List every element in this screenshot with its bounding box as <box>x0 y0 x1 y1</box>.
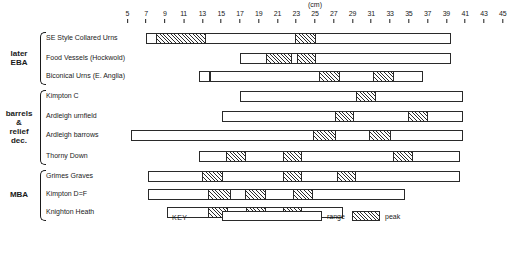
axis-tick-label: 19 <box>255 10 262 17</box>
axis-tick-35: 35 <box>405 10 412 23</box>
peak-segment <box>295 34 316 43</box>
peak-segment <box>283 172 302 181</box>
axis-tick-label: 45 <box>499 10 506 17</box>
axis-tick-mark <box>446 19 447 23</box>
axis-tick-label: 5 <box>125 10 129 17</box>
axis-tick-mark <box>258 19 259 23</box>
axis-tick-mark <box>502 19 503 23</box>
axis-tick-mark <box>164 19 165 23</box>
peak-segment <box>266 54 291 63</box>
range-bar <box>222 111 463 122</box>
axis-tick-31: 31 <box>368 10 375 23</box>
axis-tick-mark <box>333 19 334 23</box>
axis-tick-label: 29 <box>349 10 356 17</box>
axis-tick-label: 25 <box>311 10 318 17</box>
axis-tick-mark <box>127 19 128 23</box>
peak-segment <box>245 190 267 199</box>
axis-tick-27: 27 <box>330 10 337 23</box>
axis-tick-25: 25 <box>311 10 318 23</box>
axis-tick-mark <box>202 19 203 23</box>
axis-tick-label: 31 <box>368 10 375 17</box>
key-label-peak: peak <box>385 213 400 221</box>
peak-segment <box>313 131 336 140</box>
axis-tick-43: 43 <box>480 10 487 23</box>
chart-key: KEY range peak <box>0 208 522 230</box>
axis-tick-17: 17 <box>236 10 243 23</box>
axis-tick-9: 9 <box>163 10 167 23</box>
key-swatch-range <box>222 211 322 221</box>
axis-tick-mark <box>352 19 353 23</box>
group-name: MBA <box>0 190 38 199</box>
axis-tick-37: 37 <box>424 10 431 23</box>
peak-segment <box>202 172 223 181</box>
peak-segment <box>356 92 376 101</box>
axis-tick-label: 41 <box>461 10 468 17</box>
peak-segment <box>337 172 357 181</box>
axis-tick-label: 39 <box>443 10 450 17</box>
peak-segment <box>209 72 211 81</box>
axis-tick-15: 15 <box>217 10 224 23</box>
axis-tick-11: 11 <box>180 10 187 23</box>
range-bar <box>240 53 451 64</box>
peak-segment <box>293 190 314 199</box>
axis-tick-19: 19 <box>255 10 262 23</box>
axis-tick-mark <box>483 19 484 23</box>
peak-segment <box>283 152 302 161</box>
group-name: barrels & relief dec. <box>0 109 38 145</box>
peak-segment <box>297 54 316 63</box>
axis-tick-mark <box>371 19 372 23</box>
axis-tick-label: 7 <box>144 10 148 17</box>
axis-tick-label: 11 <box>180 10 187 17</box>
axis-tick-label: 35 <box>405 10 412 17</box>
axis-tick-label: 21 <box>274 10 281 17</box>
group-name: later EBA <box>0 49 38 67</box>
chart-root: (cm) 57911131517192123252729313335373941… <box>0 0 522 253</box>
axis-tick-5: 5 <box>125 10 129 23</box>
range-bar <box>146 33 451 44</box>
axis-tick-mark <box>183 19 184 23</box>
group-brace <box>40 90 46 165</box>
key-label-range: range <box>327 213 345 221</box>
axis-tick-label: 13 <box>199 10 206 17</box>
axis-tick-mark <box>408 19 409 23</box>
peak-segment <box>208 190 231 199</box>
axis-tick-mark <box>427 19 428 23</box>
row-label: SE Style Collared Urns <box>46 34 118 42</box>
peak-segment <box>335 112 355 121</box>
range-bar <box>131 130 463 141</box>
axis-tick-13: 13 <box>199 10 206 23</box>
axis-tick-33: 33 <box>386 10 393 23</box>
range-bar <box>199 71 423 82</box>
axis-tick-label: 17 <box>236 10 243 17</box>
axis-tick-mark <box>465 19 466 23</box>
row-label: Ardleigh urnfield <box>46 112 97 120</box>
peak-segment <box>408 112 428 121</box>
row-label: Kimpton C <box>46 92 79 100</box>
peak-segment <box>319 72 341 81</box>
axis-tick-mark <box>314 19 315 23</box>
row-label: Food Vessels (Hockwold) <box>46 54 125 62</box>
axis-tick-label: 43 <box>480 10 487 17</box>
axis-tick-mark <box>146 19 147 23</box>
axis-tick-45: 45 <box>499 10 506 23</box>
axis-tick-29: 29 <box>349 10 356 23</box>
axis-tick-23: 23 <box>293 10 300 23</box>
axis-tick-21: 21 <box>274 10 281 23</box>
row-label: Ardleigh barrows <box>46 131 99 139</box>
axis-tick-mark <box>296 19 297 23</box>
axis-tick-label: 37 <box>424 10 431 17</box>
axis-unit-label: (cm) <box>308 1 322 8</box>
range-bar <box>240 91 463 102</box>
range-bar <box>148 189 405 200</box>
axis-tick-label: 23 <box>293 10 300 17</box>
row-label: Thorny Down <box>46 152 88 160</box>
peak-segment <box>373 72 394 81</box>
key-swatch-peak <box>352 211 380 221</box>
peak-segment <box>369 131 391 140</box>
range-bar <box>148 171 460 182</box>
row-label: Biconical Urns (E. Anglia) <box>46 72 125 80</box>
axis-tick-mark <box>239 19 240 23</box>
row-label: Kimpton D=F <box>46 190 87 198</box>
range-bar <box>199 151 460 162</box>
axis-tick-41: 41 <box>461 10 468 23</box>
